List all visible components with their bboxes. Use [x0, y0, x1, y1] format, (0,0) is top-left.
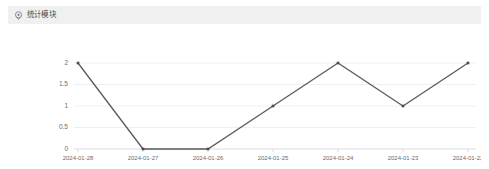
- y-tick-label: 0: [64, 145, 68, 152]
- chart-gridlines: [74, 63, 476, 128]
- card-header: 统计模块: [8, 6, 481, 24]
- data-point-marker: [142, 148, 145, 151]
- data-point-marker: [337, 62, 340, 65]
- x-tick-label: 2024-01-23: [388, 155, 419, 161]
- y-tick-label: 1: [64, 102, 68, 109]
- data-point-marker: [77, 62, 80, 65]
- location-pin-icon: [14, 11, 23, 20]
- app-root: 统计模块 00.511.52 2024-01-282024-01-272024-…: [0, 0, 489, 169]
- data-point-marker: [402, 105, 405, 108]
- chart-axis: [74, 149, 476, 152]
- x-tick-label: 2024-01-24: [323, 155, 354, 161]
- data-point-marker: [207, 148, 210, 151]
- chart-canvas: 00.511.52 2024-01-282024-01-272024-01-26…: [8, 24, 481, 163]
- data-point-marker: [467, 62, 470, 65]
- card-title: 统计模块: [27, 11, 56, 19]
- x-tick-label: 2024-01-27: [128, 155, 159, 161]
- x-tick-label: 2024-01-26: [193, 155, 224, 161]
- card-body: 00.511.52 2024-01-282024-01-272024-01-26…: [8, 24, 481, 163]
- x-tick-label: 2024-01-22: [453, 155, 481, 161]
- statistics-card: 统计模块 00.511.52 2024-01-282024-01-272024-…: [8, 6, 481, 163]
- x-tick-label: 2024-01-28: [63, 155, 94, 161]
- y-tick-label: 1.5: [59, 80, 68, 87]
- data-point-marker: [272, 105, 275, 108]
- chart-y-tick-labels: 00.511.52: [59, 59, 68, 152]
- y-tick-label: 0.5: [59, 123, 68, 130]
- line-chart: 00.511.52 2024-01-282024-01-272024-01-26…: [8, 24, 481, 163]
- y-tick-label: 2: [64, 59, 68, 66]
- chart-x-tick-labels: 2024-01-282024-01-272024-01-262024-01-25…: [63, 155, 481, 161]
- x-tick-label: 2024-01-25: [258, 155, 289, 161]
